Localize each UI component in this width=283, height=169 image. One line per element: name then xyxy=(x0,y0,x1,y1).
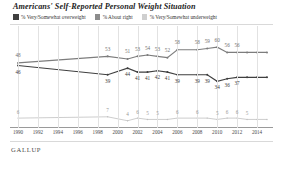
data-label: 52 xyxy=(165,49,170,54)
x-axis-tick: 1998 xyxy=(93,129,103,135)
x-axis-tick: 2010 xyxy=(212,129,222,135)
data-label: 53 xyxy=(105,47,110,52)
data-label: 39 xyxy=(205,79,210,84)
series-point xyxy=(167,119,168,120)
legend-label-overweight: % Very/Somewhat overweight xyxy=(21,14,86,20)
data-label: 39 xyxy=(175,79,180,84)
series-line xyxy=(18,66,267,82)
grid-line xyxy=(78,26,79,128)
data-label: 42 xyxy=(155,75,160,80)
data-label: 58 xyxy=(175,41,180,46)
x-axis-tick: 1994 xyxy=(53,129,63,135)
grid-line xyxy=(38,26,39,128)
plot-area: 4853515354535258585960565646394441414241… xyxy=(10,26,273,128)
data-label: 5 xyxy=(146,111,149,116)
data-label: 36 xyxy=(225,83,230,88)
x-axis-tick: 2006 xyxy=(172,129,182,135)
series-point xyxy=(166,57,168,59)
data-label: 7 xyxy=(106,109,109,114)
series-point xyxy=(266,119,267,120)
series-point xyxy=(206,47,208,49)
series-point xyxy=(226,51,228,53)
legend-swatch-underweight xyxy=(142,14,148,20)
x-axis: 1990199219941996199820002002200420062008… xyxy=(10,129,273,139)
data-label: 39 xyxy=(195,79,200,84)
data-label: 5 xyxy=(156,111,159,116)
data-label: 56 xyxy=(225,43,230,48)
x-axis-tick: 1996 xyxy=(73,129,83,135)
data-label: 6 xyxy=(136,110,139,115)
series-point xyxy=(147,119,148,120)
page-title: Americans' Self-Reported Personal Weight… xyxy=(13,2,196,11)
x-axis-tick: 2002 xyxy=(132,129,142,135)
series-point xyxy=(166,71,168,73)
grid-line xyxy=(257,26,258,128)
data-label: 6 xyxy=(196,110,199,115)
grid-line xyxy=(118,26,119,128)
data-label: 48 xyxy=(15,54,20,59)
data-label: 53 xyxy=(135,47,140,52)
series-point xyxy=(246,51,248,53)
chart-legend: % Very/Somewhat overweight % About right… xyxy=(13,14,217,20)
grid-line xyxy=(58,26,59,128)
x-axis-tick: 2008 xyxy=(192,129,202,135)
gallup-brand: GALLUP xyxy=(11,146,41,153)
series-point xyxy=(246,119,247,120)
series-line xyxy=(18,47,267,63)
legend-label-underweight: % Very/Somewhat underweight xyxy=(150,14,217,20)
series-point xyxy=(107,55,109,57)
grid-line xyxy=(98,26,99,128)
legend-swatch-overweight xyxy=(13,14,19,20)
data-label: 34 xyxy=(215,86,220,91)
series-point xyxy=(207,117,208,118)
data-label: 6 xyxy=(236,110,239,115)
gallup-chart: Americans' Self-Reported Personal Weight… xyxy=(0,0,283,169)
data-label: 54 xyxy=(145,46,150,51)
x-axis-tick: 2004 xyxy=(152,129,162,135)
data-label: 44 xyxy=(125,73,130,78)
series-point xyxy=(146,54,148,56)
data-label: 41 xyxy=(165,77,170,82)
series-point xyxy=(206,74,208,76)
series-point xyxy=(226,117,227,118)
footer-divider xyxy=(10,141,273,142)
data-label: 46 xyxy=(15,70,20,75)
data-label: 51 xyxy=(125,50,130,55)
series-point xyxy=(127,58,129,60)
data-label: 5 xyxy=(216,111,219,116)
data-label: 39 xyxy=(105,79,110,84)
series-point xyxy=(146,71,148,73)
x-axis-tick: 1990 xyxy=(13,129,23,135)
data-label: 4 xyxy=(126,113,129,118)
x-axis-tick: 2012 xyxy=(232,129,242,135)
data-label: 58 xyxy=(195,41,200,46)
data-label: 5 xyxy=(246,111,249,116)
data-label: 41 xyxy=(135,77,140,82)
series-point xyxy=(246,76,248,78)
legend-label-about-right: % About right xyxy=(103,14,133,20)
legend-swatch-about-right xyxy=(95,14,101,20)
data-label: 41 xyxy=(145,77,150,82)
legend-item-overweight: % Very/Somewhat overweight xyxy=(13,14,86,20)
data-label: 60 xyxy=(215,38,220,43)
data-label: 56 xyxy=(235,43,240,48)
series-point xyxy=(127,120,128,121)
x-axis-tick: 2014 xyxy=(252,129,262,135)
axis-baseline xyxy=(10,127,273,128)
data-label: 59 xyxy=(205,39,210,44)
series-point xyxy=(127,67,129,69)
series-line xyxy=(18,117,267,121)
data-label: 53 xyxy=(155,47,160,52)
series-point xyxy=(107,116,108,117)
series-point xyxy=(266,76,268,78)
legend-item-about-right: % About right xyxy=(95,14,133,20)
data-label: 6 xyxy=(17,110,20,115)
data-label: 6 xyxy=(226,110,229,115)
series-point xyxy=(266,51,268,53)
header-divider xyxy=(10,24,273,25)
data-label: 37 xyxy=(235,82,240,87)
x-axis-tick: 2000 xyxy=(113,129,123,135)
legend-item-underweight: % Very/Somewhat underweight xyxy=(142,14,217,20)
series-point xyxy=(107,74,109,76)
data-label: 6 xyxy=(176,110,179,115)
